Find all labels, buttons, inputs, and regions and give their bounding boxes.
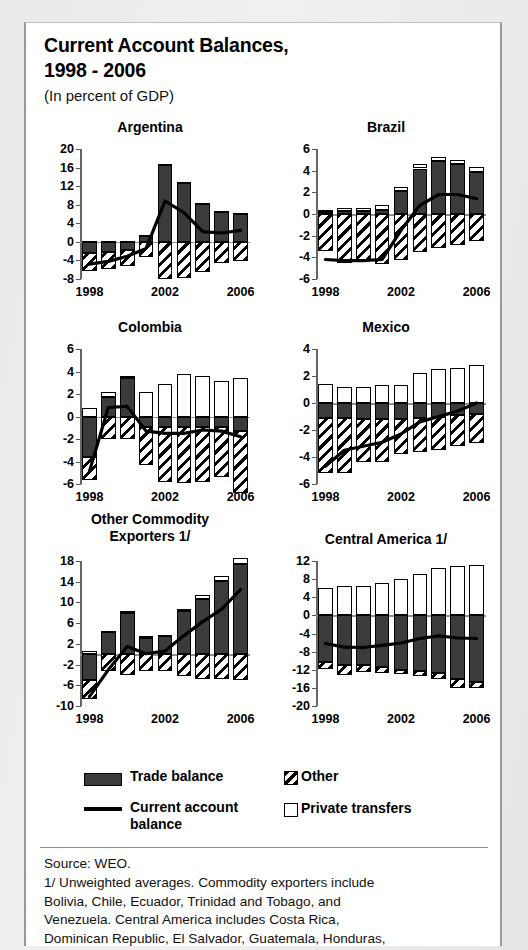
page-title: Current Account Balances, 1998 - 2006 xyxy=(44,33,289,83)
x-axis-tick-label: 2006 xyxy=(227,712,255,726)
x-axis-tick-label: 2006 xyxy=(227,490,255,504)
legend-label-other: Other xyxy=(301,768,338,785)
current-account-balance-line xyxy=(32,119,268,309)
chart-panel: Other Commodity Exporters 1/-10-6-226101… xyxy=(32,511,268,726)
x-axis-tick-label: 2006 xyxy=(227,285,255,299)
legend-label-trade-balance: Trade balance xyxy=(130,768,223,785)
current-account-balance-line xyxy=(32,511,268,726)
x-axis-tick-label: 2002 xyxy=(151,490,179,504)
x-axis-tick-label: 2002 xyxy=(387,712,415,726)
page-background: Current Account Balances, 1998 - 2006 (I… xyxy=(0,0,528,950)
current-account-balance-line xyxy=(268,511,502,726)
x-axis-tick-label: 2002 xyxy=(387,490,415,504)
x-axis-tick-label: 2006 xyxy=(463,490,491,504)
chart-panel: Brazil-6-4-20246199820022006 xyxy=(268,119,502,309)
chart-panel: Argentina-8-4048121620199820022006 xyxy=(32,119,268,309)
footnote-text: 1/ Unweighted averages. Commodity export… xyxy=(44,874,490,946)
current-account-balance-line xyxy=(268,119,502,309)
other-swatch xyxy=(284,771,298,785)
page-subtitle: (In percent of GDP) xyxy=(44,87,174,104)
footer-divider xyxy=(40,847,488,848)
chart-legend: Trade balance Current account balance Ot… xyxy=(26,769,502,835)
x-axis-tick-label: 2006 xyxy=(463,712,491,726)
chart-panel: Colombia-6-4-20246199820022006 xyxy=(32,315,268,510)
trade-balance-swatch xyxy=(84,773,122,786)
legend-label-private-transfers: Private transfers xyxy=(301,800,412,817)
x-axis-tick-label: 2006 xyxy=(463,285,491,299)
figure-card: Current Account Balances, 1998 - 2006 (I… xyxy=(24,22,502,946)
legend-label-current-account: Current account balance xyxy=(130,799,238,833)
current-account-balance-line xyxy=(32,315,268,510)
x-axis-tick-label: 1998 xyxy=(76,490,104,504)
private-transfers-swatch xyxy=(284,803,298,817)
x-axis-tick-label: 1998 xyxy=(76,712,104,726)
x-axis-tick-label: 2002 xyxy=(151,712,179,726)
x-axis-tick-label: 1998 xyxy=(312,712,340,726)
x-axis-tick-label: 2002 xyxy=(387,285,415,299)
x-axis-tick-label: 2002 xyxy=(151,285,179,299)
current-account-line-swatch xyxy=(84,807,122,811)
x-axis-tick-label: 1998 xyxy=(312,285,340,299)
chart-panel: Central America 1/-20-16-12-8-4048121998… xyxy=(268,511,502,726)
x-axis-tick-label: 1998 xyxy=(76,285,104,299)
chart-panel: Mexico-6-4-2024199820022006 xyxy=(268,315,502,510)
current-account-balance-line xyxy=(268,315,502,510)
x-axis-tick-label: 1998 xyxy=(312,490,340,504)
source-text: Source: WEO. xyxy=(44,855,490,874)
